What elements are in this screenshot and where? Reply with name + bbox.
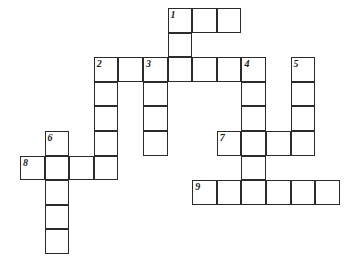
cell-r5c10[interactable] xyxy=(266,131,291,156)
cell-r8c1[interactable] xyxy=(45,205,70,230)
cell-r2c9[interactable] xyxy=(241,57,266,82)
cell-r3c5[interactable] xyxy=(143,82,168,107)
cell-r5c11[interactable] xyxy=(291,131,316,156)
cell-r3c9[interactable] xyxy=(241,82,266,107)
cell-r6c1[interactable] xyxy=(45,156,70,181)
cell-r5c8[interactable] xyxy=(217,131,242,156)
cell-r7c11[interactable] xyxy=(291,180,316,205)
cell-r7c12[interactable] xyxy=(315,180,340,205)
crossword-grid[interactable]: 123456789 xyxy=(0,0,345,258)
cell-r5c3[interactable] xyxy=(94,131,119,156)
cell-r6c9[interactable] xyxy=(241,156,266,181)
cell-r7c10[interactable] xyxy=(266,180,291,205)
cell-r3c3[interactable] xyxy=(94,82,119,107)
cell-r0c7[interactable] xyxy=(192,8,217,33)
cell-r4c11[interactable] xyxy=(291,106,316,131)
cell-r5c1[interactable] xyxy=(45,131,70,156)
cell-r7c8[interactable] xyxy=(217,180,242,205)
cell-r7c1[interactable] xyxy=(45,180,70,205)
cell-r2c6[interactable] xyxy=(168,57,193,82)
cell-r3c11[interactable] xyxy=(291,82,316,107)
cell-r2c3[interactable] xyxy=(94,57,119,82)
cell-r0c6[interactable] xyxy=(168,8,193,33)
cell-r2c5[interactable] xyxy=(143,57,168,82)
cell-r4c5[interactable] xyxy=(143,106,168,131)
cell-r6c3[interactable] xyxy=(94,156,119,181)
cell-r2c7[interactable] xyxy=(192,57,217,82)
cell-r2c8[interactable] xyxy=(217,57,242,82)
cell-r6c2[interactable] xyxy=(69,156,94,181)
cell-r0c8[interactable] xyxy=(217,8,242,33)
cell-r2c4[interactable] xyxy=(118,57,143,82)
cell-r4c3[interactable] xyxy=(94,106,119,131)
cell-r2c11[interactable] xyxy=(291,57,316,82)
cell-r7c7[interactable] xyxy=(192,180,217,205)
cell-r5c5[interactable] xyxy=(143,131,168,156)
cell-r1c6[interactable] xyxy=(168,33,193,58)
cell-r7c9[interactable] xyxy=(241,180,266,205)
crossword-puzzle: 123456789 xyxy=(0,0,345,258)
cell-r9c1[interactable] xyxy=(45,229,70,254)
cell-r5c9[interactable] xyxy=(241,131,266,156)
cell-r6c0[interactable] xyxy=(20,156,45,181)
cell-r4c9[interactable] xyxy=(241,106,266,131)
